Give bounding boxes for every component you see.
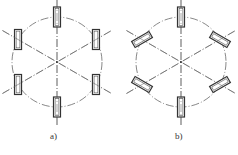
- diagram-canvas: [0, 0, 238, 155]
- figure-a-label: a): [50, 131, 57, 141]
- center-point: [56, 61, 58, 63]
- figure-b-label: b): [175, 131, 183, 141]
- center-point: [180, 61, 182, 63]
